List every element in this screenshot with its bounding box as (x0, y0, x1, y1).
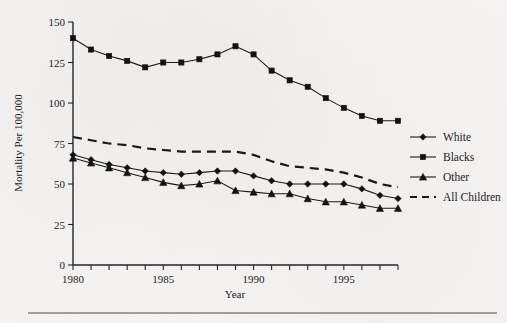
marker-diamond (305, 181, 311, 187)
y-axis-tick-labels: 0255075100125150 (49, 16, 66, 271)
x-axis-ticks (73, 265, 398, 270)
marker-square (107, 53, 112, 58)
marker-diamond (323, 181, 329, 187)
marker-square (377, 118, 382, 123)
marker-square (420, 154, 425, 159)
series-white (70, 152, 401, 202)
legend-label: Blacks (443, 151, 475, 163)
marker-square (359, 113, 364, 118)
legend-label: White (443, 131, 471, 143)
marker-square (161, 60, 166, 65)
marker-diamond (142, 168, 148, 174)
series-all-children (73, 137, 398, 187)
marker-diamond (341, 181, 347, 187)
marker-square (323, 96, 328, 101)
marker-diamond (359, 186, 365, 192)
y-tick-label: 150 (49, 16, 66, 28)
marker-square (395, 118, 400, 123)
marker-diamond (178, 171, 184, 177)
series-layer (69, 36, 401, 212)
chart-legend: WhiteBlacksOtherAll Children (410, 131, 501, 203)
legend-label: All Children (443, 191, 501, 203)
marker-square (215, 52, 220, 57)
marker-diamond (214, 168, 220, 174)
marker-square (287, 78, 292, 83)
marker-diamond (160, 169, 166, 175)
marker-square (269, 68, 274, 73)
marker-square (70, 36, 75, 41)
series-path (73, 158, 398, 208)
y-tick-label: 100 (49, 97, 66, 109)
x-tick-label: 1995 (333, 273, 356, 285)
marker-triangle (214, 177, 221, 184)
x-tick-label: 1985 (152, 273, 175, 285)
y-tick-label: 25 (54, 219, 66, 231)
y-axis-title: Mortality Per 100,000 (12, 94, 24, 192)
x-axis-title: Year (225, 288, 246, 300)
marker-square (251, 52, 256, 57)
x-tick-label: 1980 (62, 273, 85, 285)
marker-square (179, 60, 184, 65)
x-tick-label: 1990 (243, 273, 266, 285)
marker-diamond (286, 181, 292, 187)
marker-square (125, 58, 130, 63)
legend-label: Other (443, 171, 469, 183)
legend-entry-white[interactable]: White (410, 131, 471, 143)
marker-diamond (377, 192, 383, 198)
marker-diamond (395, 195, 401, 201)
legend-entry-other[interactable]: Other (410, 171, 469, 183)
marker-square (305, 84, 310, 89)
marker-diamond (196, 169, 202, 175)
marker-square (233, 44, 238, 49)
x-axis-tick-labels: 1980198519901995 (62, 273, 355, 285)
y-axis-ticks (68, 22, 73, 265)
marker-diamond (250, 173, 256, 179)
marker-diamond (268, 178, 274, 184)
marker-diamond (232, 168, 238, 174)
series-path (73, 38, 398, 121)
y-tick-label: 0 (60, 259, 66, 271)
legend-entry-blacks[interactable]: Blacks (410, 151, 475, 163)
series-other (69, 154, 401, 211)
legend-entry-all-children[interactable]: All Children (410, 191, 501, 203)
mortality-line-chart: 0255075100125150 1980198519901995 Year M… (0, 0, 507, 323)
marker-square (197, 57, 202, 62)
y-tick-label: 125 (49, 57, 66, 69)
series-blacks (70, 36, 400, 124)
y-tick-label: 50 (54, 178, 66, 190)
marker-square (143, 65, 148, 70)
figure-container: 0255075100125150 1980198519901995 Year M… (0, 0, 507, 323)
marker-square (341, 105, 346, 110)
marker-square (88, 47, 93, 52)
series-path (73, 137, 398, 187)
y-tick-label: 75 (54, 138, 66, 150)
marker-diamond (420, 134, 426, 140)
